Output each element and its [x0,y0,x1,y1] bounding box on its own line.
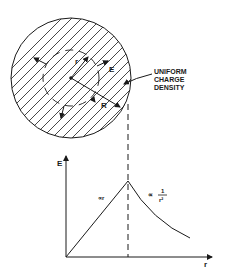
linear-segment [66,181,128,257]
outside-annotation: ∝ 1 r² [148,188,167,203]
field-diagram: r E R UNIFORM CHARGE DENSITY E r ∝r ∝ 1 … [0,0,226,279]
svg-text:DENSITY: DENSITY [154,84,185,91]
uniform-charge-density-label: UNIFORM CHARGE DENSITY [154,68,187,91]
inside-annotation: ∝r [98,195,105,201]
y-axis-label: E [57,159,63,168]
svg-text:∝: ∝ [148,191,153,198]
svg-text:1: 1 [161,188,165,194]
outer-radius-arrow [71,78,120,107]
inverse-square-segment [128,181,190,238]
inner-radius-label: r [75,57,78,66]
field-arrow-lower-right [92,98,95,102]
field-arrow-left [34,58,46,64]
x-axis-label: r [204,260,207,269]
outer-radius-label: R [101,101,107,110]
field-graph: E r ∝r ∝ 1 r² [57,156,212,269]
svg-text:r²: r² [159,197,163,203]
charged-sphere: r E R [0,0,226,200]
label-leader-line [124,74,152,84]
svg-text:CHARGE: CHARGE [154,76,185,83]
field-label: E [109,65,115,74]
svg-text:UNIFORM: UNIFORM [154,68,187,75]
